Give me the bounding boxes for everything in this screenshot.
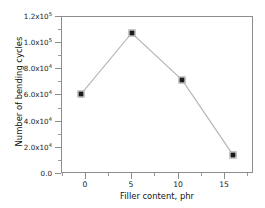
chart-figure: 0.0 2.0x104 4.0x104 6.0x104 8.0x104 1.0x… [0, 0, 265, 208]
data-point [128, 30, 135, 37]
data-point [179, 77, 186, 84]
data-point [78, 90, 85, 97]
data-point [229, 151, 236, 158]
